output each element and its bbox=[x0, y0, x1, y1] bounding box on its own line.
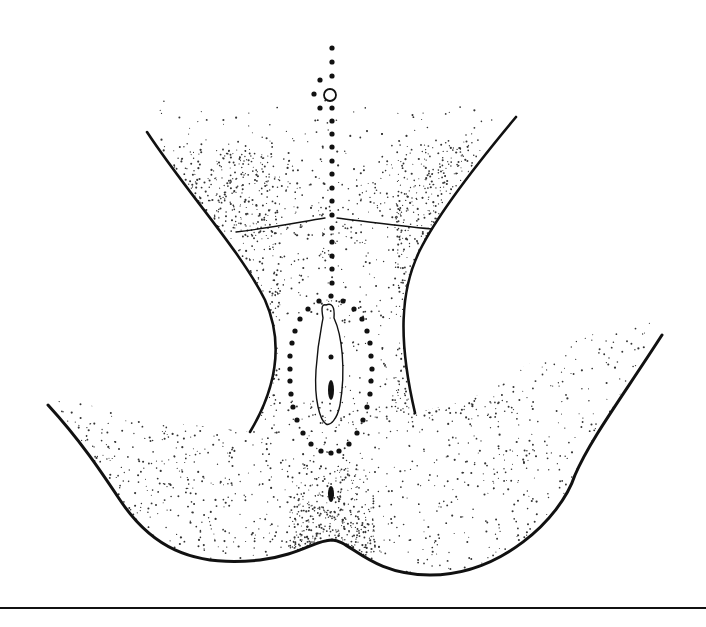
left-thigh-buttock-outline bbox=[48, 405, 332, 562]
midline-dot bbox=[329, 105, 334, 110]
midline-dot bbox=[329, 45, 334, 50]
oval-incision-dot bbox=[287, 366, 292, 371]
midline-dot bbox=[329, 171, 334, 176]
midline-dot bbox=[329, 158, 334, 163]
midline-dot bbox=[329, 59, 334, 64]
midline-dot bbox=[329, 131, 334, 136]
anatomical-illustration bbox=[0, 0, 706, 627]
oval-incision-dot bbox=[316, 298, 321, 303]
side-dot bbox=[317, 77, 322, 82]
oval-incision-dot bbox=[340, 298, 345, 303]
oval-incision-dot bbox=[328, 293, 333, 298]
oval-incision-dot bbox=[364, 328, 369, 333]
midline-dot bbox=[329, 73, 334, 78]
oval-incision-dot bbox=[336, 448, 341, 453]
oval-incision-dot bbox=[367, 340, 372, 345]
midline-dot bbox=[329, 225, 334, 230]
oval-incision-dot bbox=[368, 353, 373, 358]
oval-incision-dot bbox=[360, 417, 365, 422]
oval-incision-dot bbox=[354, 430, 359, 435]
oval-incision-dot bbox=[367, 391, 372, 396]
oval-incision-dot bbox=[351, 306, 356, 311]
oval-incision-dot bbox=[368, 378, 373, 383]
oval-incision-dot bbox=[292, 328, 297, 333]
mons-fold-left-line bbox=[236, 218, 325, 232]
midline-dot bbox=[329, 144, 334, 149]
oval-incision-dot bbox=[289, 340, 294, 345]
midline-dot bbox=[329, 253, 334, 258]
illustration-canvas bbox=[0, 0, 706, 627]
oval-incision-dot bbox=[364, 404, 369, 409]
oval-incision-dot bbox=[369, 366, 374, 371]
right-inguinal-fold-line bbox=[404, 117, 516, 413]
oval-incision-dot bbox=[294, 417, 299, 422]
midline-dot bbox=[329, 239, 334, 244]
midline-dot bbox=[329, 198, 334, 203]
oval-incision-dot bbox=[287, 378, 292, 383]
labium-outline bbox=[316, 304, 343, 424]
oval-incision-dot bbox=[308, 441, 313, 446]
oval-incision-dot bbox=[290, 404, 295, 409]
oval-incision-dot bbox=[287, 353, 292, 358]
vaginal-opening-mark bbox=[328, 380, 334, 400]
midline-dot bbox=[329, 185, 334, 190]
left-inguinal-fold-line bbox=[147, 132, 276, 432]
oval-incision-dot bbox=[305, 306, 310, 311]
urethral-dot-mark bbox=[329, 355, 334, 360]
side-dot bbox=[317, 105, 322, 110]
oval-incision-dot bbox=[346, 441, 351, 446]
anal-mark bbox=[328, 486, 334, 502]
midline-dot bbox=[329, 280, 334, 285]
oval-incision-dot bbox=[297, 316, 302, 321]
side-dot bbox=[311, 91, 316, 96]
stipple-shading bbox=[54, 100, 671, 576]
umbilical-circle-mark bbox=[324, 89, 336, 101]
oval-incision-dot bbox=[300, 430, 305, 435]
midline-dot bbox=[329, 118, 334, 123]
midline-dot bbox=[329, 212, 334, 217]
oval-incision-dot bbox=[318, 448, 323, 453]
oval-incision-dot bbox=[288, 391, 293, 396]
contour-lines bbox=[0, 117, 706, 608]
oval-incision-dot bbox=[328, 450, 333, 455]
midline-dot bbox=[329, 266, 334, 271]
oval-incision-dot bbox=[359, 316, 364, 321]
